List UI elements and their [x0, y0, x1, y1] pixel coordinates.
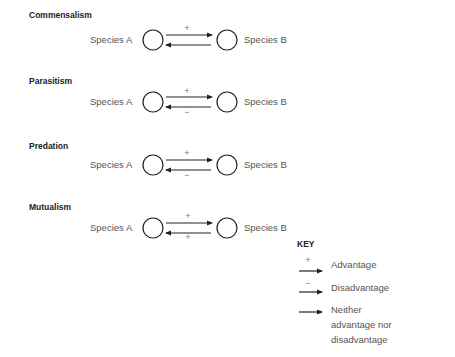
relationship-row-mutualism: [143, 218, 237, 238]
relationship-row-predation: [143, 155, 237, 175]
relationship-row-commensalism: [143, 30, 237, 50]
species-b-circle: [217, 92, 237, 112]
relationship-diagram: [0, 0, 455, 357]
species-a-circle: [143, 30, 163, 50]
species-b-circle: [217, 218, 237, 238]
species-a-circle: [143, 92, 163, 112]
relationship-row-parasitism: [143, 92, 237, 112]
species-b-circle: [217, 30, 237, 50]
species-a-circle: [143, 218, 163, 238]
species-b-circle: [217, 155, 237, 175]
species-a-circle: [143, 155, 163, 175]
